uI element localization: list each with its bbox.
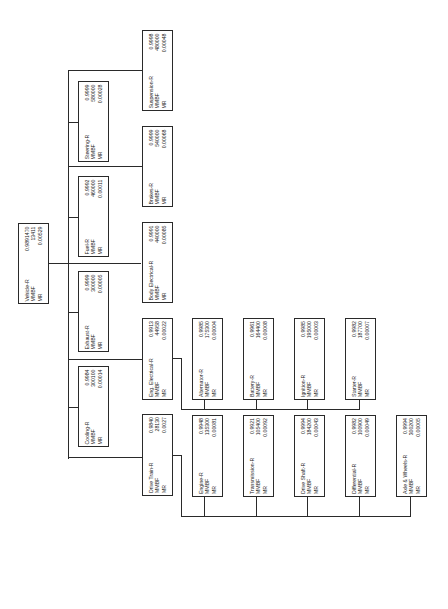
mmbf-label: MMBF xyxy=(90,239,96,254)
mr-value: 0.00008 xyxy=(262,321,268,344)
block-ignition[interactable]: Ignition-R0.9985 MMBF195000 MR0.00003 xyxy=(294,318,325,400)
mmbf-label: MMBF xyxy=(90,144,96,159)
connector-trunk-vertical xyxy=(68,70,69,459)
mmbf-label: MMBF xyxy=(154,478,160,493)
block-body-electrical[interactable]: Body Electrical-R0.9991 MMBF440000 MR0.0… xyxy=(142,222,173,303)
block-name: Engine-R xyxy=(198,472,204,494)
reliability-value: 0.9984 xyxy=(84,369,90,389)
connector-fuel xyxy=(68,217,78,218)
mr-label: MR xyxy=(37,293,43,301)
block-exhaust[interactable]: Exhaust-R0.9999 MMBF300000 MR0.00005 xyxy=(78,271,109,352)
mmbf-label: MMBF xyxy=(306,479,312,494)
connector-starter xyxy=(359,400,360,410)
connector-alternator xyxy=(204,400,205,410)
mr-value: 0.00068 xyxy=(161,129,167,152)
block-engine[interactable]: Engine-R0.9948 MMBF135300 MR0.00081 xyxy=(192,415,223,497)
mr-value: 0.00014 xyxy=(97,369,103,392)
connector-exhaust xyxy=(68,312,78,313)
block-transmission[interactable]: Transmission-R0.9921 MMBF105400 MR0.0009… xyxy=(243,415,274,497)
reliability-value: 0.9921 xyxy=(249,418,255,438)
connector-eng-electrical-out xyxy=(172,358,181,359)
block-brakes[interactable]: Brakes-R0.9999 MMBF540000 MR0.00068 xyxy=(142,126,173,207)
mr-value: 0.00529 xyxy=(37,226,43,249)
reliability-value: 0.9991 xyxy=(148,225,154,245)
reliability-value: 0.9982 xyxy=(351,418,357,438)
mmbf-label: MMBF xyxy=(255,382,261,397)
mmbf-label: MMBF xyxy=(154,93,160,108)
reliability-value: 0.9891470 xyxy=(24,226,30,255)
connector-differential xyxy=(359,497,360,517)
block-name: Fuel-R xyxy=(84,238,90,254)
reliability-value: 0.9994 xyxy=(300,418,306,438)
mmbf-label: MMBF xyxy=(408,479,414,494)
mmbf-value: 580000 xyxy=(90,84,96,105)
mmbf-value: 44958 xyxy=(154,321,160,339)
connector-transmission xyxy=(256,497,257,517)
mr-value: 0.00004 xyxy=(211,321,217,344)
block-vehicle[interactable]: Vehicle-R0.9891470 MMBF13411 MR0.00529 xyxy=(18,223,49,304)
reliability-value: 0.9999 xyxy=(84,84,90,104)
block-name: Cooling-R xyxy=(84,421,90,444)
mr-value: 0.00081 xyxy=(211,418,217,441)
mr-label: MR xyxy=(313,389,319,397)
mr-label: MR xyxy=(211,486,217,494)
mmbf-label: MMBF xyxy=(357,382,363,397)
mmbf-label: MMBF xyxy=(30,286,36,301)
reliability-value: 0.9913 xyxy=(148,321,154,341)
mr-label: MR xyxy=(161,485,167,493)
mmbf-value: 105400 xyxy=(255,418,261,439)
mr-value: 0.00085 xyxy=(161,225,167,248)
block-name: Differential-R xyxy=(351,464,357,494)
block-battery[interactable]: Battery-R0.9961 MMBF164400 MR0.00008 xyxy=(243,318,274,400)
block-axle-wheels[interactable]: Axle & Wheels-R0.9994 MMBF300200 MR0.000… xyxy=(396,415,427,497)
block-name: Ignition-R xyxy=(300,375,306,397)
block-suspension[interactable]: Suspension-R0.9998 MMBF480000 MR0.00048 xyxy=(142,30,173,111)
mr-label: MR xyxy=(313,486,319,494)
mr-value: 0.00005 xyxy=(415,418,421,441)
block-name: Drive Train-R xyxy=(148,462,154,493)
mr-value: 0.00007 xyxy=(364,321,370,344)
connector-eng-electrical-bus-h xyxy=(181,409,360,410)
mr-label: MR xyxy=(262,486,268,494)
mr-label: MR xyxy=(161,196,167,204)
block-alternator[interactable]: Alternator-R0.9985 MMBF175300 MR0.00004 xyxy=(192,318,223,400)
block-name: Transmission-R xyxy=(249,458,255,494)
reliability-value: 0.9999 xyxy=(84,274,90,294)
mmbf-label: MMBF xyxy=(357,479,363,494)
block-name: Suspension-R xyxy=(148,75,154,108)
block-differential[interactable]: Differential-R0.9982 MMBF100900 MR0.0004… xyxy=(345,415,376,497)
block-starter[interactable]: Starter-R0.9982 MMBF187700 MR0.00007 xyxy=(345,318,376,400)
mmbf-value: 100900 xyxy=(357,418,363,439)
mmbf-label: MMBF xyxy=(154,285,160,300)
mr-value: 0.00028 xyxy=(97,84,103,107)
mmbf-value: 440000 xyxy=(154,225,160,246)
mr-label: MR xyxy=(97,436,103,444)
block-name: Vehicle-R xyxy=(24,279,30,301)
reliability-value: 0.9985 xyxy=(300,321,306,341)
block-steering[interactable]: Steering-R0.9999 MMBF580000 MR0.00028 xyxy=(78,81,109,162)
mr-value: 0.00003 xyxy=(313,321,319,344)
mr-label: MR xyxy=(364,389,370,397)
connector-drive-shaft xyxy=(307,497,308,517)
block-cooling[interactable]: Cooling-R0.9984 MMBF300100 MR0.00014 xyxy=(78,366,109,447)
block-name: Exhaust-R xyxy=(84,325,90,349)
mmbf-value: 460000 xyxy=(90,179,96,200)
block-drive-train[interactable]: Drive Train-R0.9840 MMBF28130 MR0.0027 xyxy=(142,414,173,496)
block-name: Body Electrical-R xyxy=(148,260,154,300)
mmbf-label: MMBF xyxy=(90,429,96,444)
mmbf-label: MMBF xyxy=(255,479,261,494)
block-drive-shaft[interactable]: Drive Shaft-R0.9994 MMBF184200 MR0.00043 xyxy=(294,415,325,497)
mr-label: MR xyxy=(161,292,167,300)
mr-value: 0.00005 xyxy=(97,274,103,297)
block-fuel[interactable]: Fuel-R0.9992 MMBF460000 MR0.00011 xyxy=(78,176,109,257)
mmbf-label: MMBF xyxy=(204,479,210,494)
connector-brakes xyxy=(68,166,142,167)
connector-ignition xyxy=(307,400,308,410)
mr-value: 0.00043 xyxy=(313,418,319,441)
mmbf-value: 300200 xyxy=(408,418,414,439)
block-name: Eng. Electrical-R xyxy=(148,358,154,397)
mmbf-value: 187700 xyxy=(357,321,363,342)
block-eng-electrical[interactable]: Eng. Electrical-R0.9913 MMBF44958 MR0.00… xyxy=(142,318,173,400)
reliability-value: 0.9998 xyxy=(148,33,154,53)
mmbf-label: MMBF xyxy=(154,382,160,397)
